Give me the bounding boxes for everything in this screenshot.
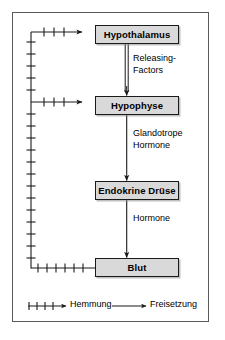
node-endokrine-druese-label: Endokrine Drüse bbox=[98, 185, 176, 196]
edge-label-hormone: Hormone bbox=[133, 213, 170, 225]
legend-item-freisetzung-label: Freisetzung bbox=[150, 299, 197, 309]
feedback-hemmung-path bbox=[27, 32, 96, 273]
legend-item-hemmung-label: Hemmung bbox=[70, 299, 112, 309]
feedback-arrow-hypothalamus bbox=[31, 28, 82, 37]
diagram-connectors bbox=[0, 0, 225, 340]
edge-label-glandotrope-hormone: Glandotrope Hormone bbox=[133, 128, 183, 151]
node-blut: Blut bbox=[95, 258, 179, 277]
node-blut-label: Blut bbox=[128, 262, 147, 273]
legend: Hemmung Freisetzung bbox=[22, 297, 200, 313]
diagram-figure: Hypothalamus Hypophyse Endokrine Drüse B… bbox=[0, 0, 225, 340]
edge-releasing-factors bbox=[125, 44, 128, 96]
node-endokrine-druese: Endokrine Drüse bbox=[95, 181, 179, 200]
edge-label-releasing-factors: Releasing- Factors bbox=[133, 53, 176, 76]
node-hypophyse-label: Hypophyse bbox=[111, 100, 163, 111]
node-hypothalamus: Hypothalamus bbox=[95, 25, 179, 44]
node-hypophyse: Hypophyse bbox=[95, 96, 179, 115]
feedback-arrow-hypophyse bbox=[31, 98, 82, 107]
node-hypothalamus-label: Hypothalamus bbox=[104, 29, 171, 40]
